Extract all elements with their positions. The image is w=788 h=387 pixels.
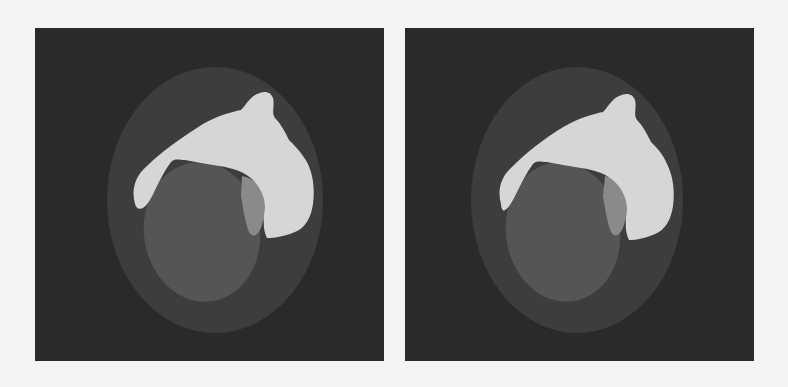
segmentation-image-right — [405, 28, 754, 361]
segmentation-graphic-right — [405, 28, 754, 361]
segmentation-graphic-left — [35, 28, 384, 361]
segmentation-image-left — [35, 28, 384, 361]
